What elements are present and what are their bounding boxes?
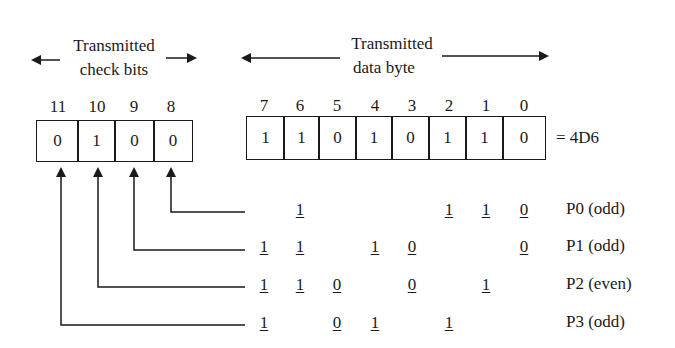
check-bit-cell: 0 xyxy=(153,120,193,162)
data-bit-cell: 1 xyxy=(246,116,285,160)
parity-bit: 0 xyxy=(408,237,417,257)
check-bit-position: 8 xyxy=(167,97,176,117)
data-bit-position: 3 xyxy=(408,96,417,116)
data-bit-cell: 1 xyxy=(428,116,467,160)
check-bit-cell: 1 xyxy=(77,120,116,162)
parity-bit: 1 xyxy=(260,237,269,257)
parity-bit: 1 xyxy=(260,313,269,333)
parity-bit: 1 xyxy=(296,275,305,295)
parity-bit: 1 xyxy=(371,313,380,333)
data-byte-subtitle: data byte xyxy=(353,58,415,78)
check-bit-position: 10 xyxy=(89,97,106,117)
data-bit-position: 7 xyxy=(260,96,269,116)
parity-bit: 1 xyxy=(296,200,305,220)
data-bit-cell: 1 xyxy=(355,116,393,160)
data-bit-position: 1 xyxy=(482,96,491,116)
data-bit-position: 5 xyxy=(333,96,342,116)
data-bit-cell: 1 xyxy=(465,116,504,160)
parity-bit: 1 xyxy=(445,200,454,220)
parity-row-label: P0 (odd) xyxy=(566,199,625,219)
parity-bit: 1 xyxy=(371,237,380,257)
parity-bit: 1 xyxy=(296,237,305,257)
check-bit-position: 11 xyxy=(50,97,66,117)
check-bits-subtitle: check bits xyxy=(80,60,148,80)
data-bit-position: 0 xyxy=(520,96,529,116)
parity-bit: 1 xyxy=(482,200,491,220)
check-bit-cell: 0 xyxy=(36,120,79,162)
p1-connector-arrow-icon xyxy=(134,172,245,250)
check-bit-cell: 0 xyxy=(114,120,155,162)
parity-bit: 0 xyxy=(520,200,529,220)
hex-value-label: = 4D6 xyxy=(556,128,599,148)
data-bit-position: 2 xyxy=(445,96,454,116)
parity-bit: 0 xyxy=(333,313,342,333)
parity-bit: 0 xyxy=(408,275,417,295)
parity-bit: 1 xyxy=(260,275,269,295)
data-bit-cell: 0 xyxy=(391,116,430,160)
parity-row-label: P1 (odd) xyxy=(566,236,625,256)
p0-connector-arrow-icon xyxy=(171,172,245,212)
data-bit-cell: 0 xyxy=(318,116,357,160)
data-bit-cell: 1 xyxy=(283,116,320,160)
data-bit-position: 4 xyxy=(371,96,380,116)
data-bit-cell: 0 xyxy=(502,116,546,160)
data-byte-title: Transmitted xyxy=(351,34,433,54)
data-bit-position: 6 xyxy=(296,96,305,116)
parity-bit: 0 xyxy=(520,237,529,257)
check-bit-position: 9 xyxy=(130,97,139,117)
parity-bit: 1 xyxy=(482,275,491,295)
check-bits-title: Transmitted xyxy=(73,36,155,56)
parity-row-label: P2 (even) xyxy=(566,274,632,294)
parity-row-label: P3 (odd) xyxy=(566,312,625,332)
parity-bit: 1 xyxy=(445,313,454,333)
parity-bit: 0 xyxy=(333,275,342,295)
p3-connector-arrow-icon xyxy=(61,172,245,325)
